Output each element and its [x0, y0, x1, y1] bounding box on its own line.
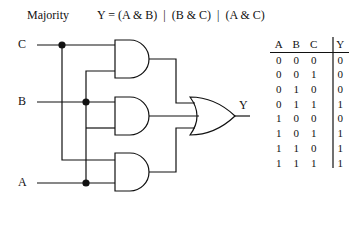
- header-c: C: [305, 37, 323, 52]
- cell: 1: [270, 126, 288, 141]
- cell: 1: [332, 156, 350, 171]
- wire-and1-out: [149, 59, 195, 103]
- cell: 1: [305, 156, 323, 171]
- cell: 1: [305, 67, 323, 82]
- cell: 0: [332, 53, 350, 68]
- table-row: 0111: [270, 97, 349, 112]
- cell: 1: [288, 141, 306, 156]
- cell: 1: [332, 141, 350, 156]
- and-gate-ac: [115, 153, 149, 191]
- cell: 0: [270, 53, 288, 68]
- header-a: A: [270, 37, 288, 52]
- junction-dot: [83, 99, 89, 105]
- cell: 1: [288, 156, 306, 171]
- cell: 1: [270, 111, 288, 126]
- table-row: 1000: [270, 111, 349, 126]
- table-row: 0000: [270, 53, 349, 68]
- or-gate: [190, 97, 235, 135]
- cell: 1: [332, 126, 350, 141]
- table-row: 1101: [270, 141, 349, 156]
- cell: 1: [288, 97, 306, 112]
- table-row: 0010: [270, 67, 349, 82]
- cell: 1: [305, 126, 323, 141]
- cell: 1: [288, 82, 306, 97]
- cell: 1: [305, 97, 323, 112]
- header-b: B: [288, 37, 306, 52]
- table-row: 1011: [270, 126, 349, 141]
- junction-dot: [59, 42, 65, 48]
- wire-and3-out: [149, 128, 195, 172]
- cell: 0: [305, 141, 323, 156]
- cell: 1: [332, 97, 350, 112]
- wire-b-a-branch: [86, 71, 115, 183]
- cell: 0: [305, 111, 323, 126]
- cell: 0: [288, 53, 306, 68]
- cell: 0: [270, 67, 288, 82]
- table-row: 1111: [270, 156, 349, 171]
- truth-table-header: A B C Y: [270, 37, 349, 53]
- junction-dot: [83, 180, 89, 186]
- cell: 0: [305, 53, 323, 68]
- cell: 1: [270, 156, 288, 171]
- cell: 0: [332, 82, 350, 97]
- table-row: 0100: [270, 82, 349, 97]
- cell: 0: [270, 82, 288, 97]
- cell: 0: [288, 67, 306, 82]
- and-gate-ab: [115, 97, 149, 135]
- cell: 0: [288, 111, 306, 126]
- truth-table: A B C Y 0000 0010 0100 0111 1000 1011 11…: [270, 37, 349, 170]
- cell: 1: [270, 141, 288, 156]
- header-y: Y: [332, 37, 350, 52]
- cell: 0: [288, 126, 306, 141]
- cell: 0: [305, 82, 323, 97]
- and-gate-bc: [115, 40, 149, 78]
- cell: 0: [332, 67, 350, 82]
- cell: 0: [332, 111, 350, 126]
- cell: 0: [270, 97, 288, 112]
